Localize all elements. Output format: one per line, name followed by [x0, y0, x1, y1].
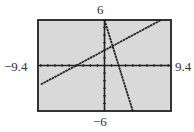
graph-window — [0, 0, 194, 132]
